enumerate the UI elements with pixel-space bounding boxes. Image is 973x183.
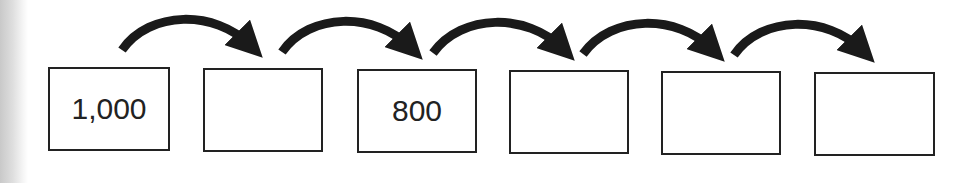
arrow-icon bbox=[433, 22, 562, 53]
box-value: 800 bbox=[392, 94, 442, 128]
sequence-box-2[interactable] bbox=[203, 68, 323, 152]
box-value: 1,000 bbox=[71, 92, 146, 126]
sequence-box-1: 1,000 bbox=[48, 67, 170, 151]
arrow-icon bbox=[282, 21, 410, 52]
arrow-icon bbox=[583, 23, 712, 54]
arrow-icon bbox=[122, 19, 250, 50]
arrow-icon bbox=[734, 24, 862, 55]
sequence-box-5[interactable] bbox=[661, 71, 781, 155]
sequence-box-6[interactable] bbox=[814, 72, 935, 156]
sequence-box-3: 800 bbox=[357, 69, 477, 153]
sequence-box-4[interactable] bbox=[509, 70, 629, 154]
